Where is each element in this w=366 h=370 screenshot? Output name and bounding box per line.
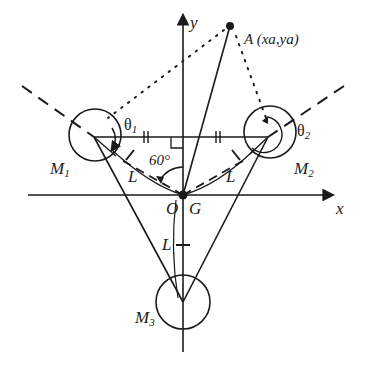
theta2-label: θ2	[297, 122, 311, 141]
robot-kinematics-diagram: x y A (xa,ya) θ1 M1 θ2	[0, 0, 366, 370]
mass-m1	[69, 109, 121, 161]
origin-dot	[179, 191, 188, 200]
line-o-to-a	[183, 26, 230, 195]
y-axis-label: y	[188, 13, 198, 32]
x-axis-label: x	[335, 199, 344, 218]
point-a-label: A (xa,ya)	[243, 31, 299, 48]
theta1-arc-icon	[112, 128, 115, 150]
mass-m2	[244, 106, 296, 158]
m2-label: M2	[293, 159, 314, 179]
right-angle-icon	[171, 137, 183, 148]
theta1-label: θ1	[124, 116, 137, 135]
m3-label: M3	[134, 308, 155, 328]
origin-label: O	[166, 199, 178, 218]
center-of-gravity-label: G	[189, 199, 201, 218]
length-label-right: L	[225, 167, 235, 186]
dotted-guide-lines	[108, 30, 266, 118]
length-label-left: L	[127, 167, 137, 186]
point-a-dot	[226, 22, 234, 30]
sixty-degree-label: 60°	[149, 152, 170, 168]
m1-label: M1	[49, 159, 70, 179]
length-label-bottom: L	[161, 235, 171, 254]
